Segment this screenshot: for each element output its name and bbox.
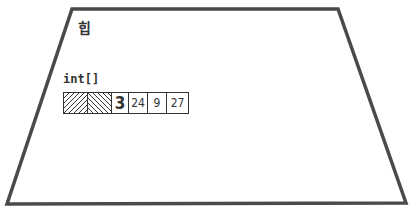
array-length-cell: 3 [111, 93, 128, 113]
array-element-0: 24 [128, 93, 147, 113]
heap-label: 힙 [78, 17, 91, 37]
heap-region-outline [0, 0, 412, 214]
object-header-cell-1 [64, 93, 87, 113]
array-element-2: 27 [166, 93, 188, 113]
array-element-1: 9 [147, 93, 166, 113]
object-header-cell-2 [87, 93, 111, 113]
hatch-forward-icon [64, 93, 87, 113]
int-array-object: 3 24 9 27 [63, 92, 189, 114]
array-type-label: int[] [63, 72, 99, 86]
hatch-backward-icon [88, 93, 111, 113]
